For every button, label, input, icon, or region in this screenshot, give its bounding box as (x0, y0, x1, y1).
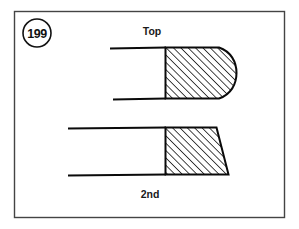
second-ring-body-taper-face (166, 128, 229, 175)
figure-canvas: 199 Top 2nd (0, 0, 299, 229)
figure-page: 199 Top 2nd (0, 0, 299, 229)
top-ring-upper-land-line (110, 48, 166, 49)
top-ring-label: Top (143, 25, 161, 37)
figure-number-badge: 199 (23, 19, 51, 47)
second-ring-label: 2nd (141, 188, 160, 200)
second-ring-lower-land-line (68, 175, 166, 176)
top-ring-body-barrel-face (166, 48, 237, 99)
top-ring-lower-land-line (113, 99, 166, 100)
figure-number-label: 199 (27, 27, 47, 41)
figure-border (15, 12, 285, 218)
second-ring-upper-land-line (68, 128, 166, 129)
